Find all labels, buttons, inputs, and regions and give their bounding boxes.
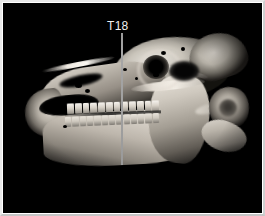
tooth	[82, 103, 89, 114]
slice-marker-label: T18	[107, 20, 129, 32]
tooth	[79, 116, 86, 126]
atlas-vertebral-canal	[219, 99, 237, 117]
tooth	[98, 102, 105, 113]
foramen	[63, 125, 67, 128]
tooth	[129, 101, 136, 112]
transverse-process	[194, 99, 229, 117]
tooth	[152, 113, 159, 123]
nasal-aperture-void	[38, 92, 100, 117]
tooth	[87, 116, 94, 126]
ct-figure: T18	[0, 0, 265, 216]
axis-vertebra-region	[197, 115, 250, 158]
foramen	[161, 51, 166, 55]
temporal-fossa-region	[169, 61, 199, 81]
ct-image-canvas: T18	[3, 3, 262, 213]
rostrum-region	[23, 87, 68, 139]
tooth	[152, 100, 159, 111]
atlas-vertebra-region	[206, 84, 252, 132]
foramen	[135, 77, 138, 80]
tooth	[137, 101, 144, 112]
skull-volume-rendering	[3, 3, 262, 213]
nasal-bone-highlight	[41, 55, 115, 74]
tooth	[94, 116, 101, 126]
zygomatic-arch-region	[131, 77, 206, 94]
tooth	[131, 114, 138, 124]
foramen	[123, 68, 127, 71]
tooth	[109, 115, 116, 125]
occipital-crest-region	[183, 25, 252, 87]
mandible-region	[42, 107, 205, 169]
foramen	[153, 73, 159, 77]
tooth	[145, 113, 152, 123]
tooth	[113, 102, 120, 113]
mandibular-cheek-teeth	[65, 113, 159, 127]
hyoid-region	[163, 64, 209, 81]
paranasal-sinus-void	[58, 71, 103, 91]
foramen	[75, 83, 82, 88]
maxillary-cheek-teeth	[67, 100, 159, 114]
tooth	[90, 103, 97, 114]
tooth	[75, 103, 82, 114]
foramen	[181, 47, 185, 51]
foramen	[85, 89, 90, 93]
cranium-region	[108, 30, 235, 106]
tooth	[101, 115, 108, 125]
diastema-region	[51, 106, 73, 114]
mandibular-ramus-region	[145, 72, 214, 166]
tooth	[65, 117, 72, 127]
tooth	[123, 114, 130, 124]
tooth	[67, 103, 74, 114]
tooth	[138, 114, 145, 124]
tooth	[72, 116, 79, 126]
orbital-rim	[137, 49, 183, 91]
occlusal-plane	[65, 110, 161, 116]
orbit-region	[143, 55, 169, 79]
maxilla-region	[36, 56, 169, 119]
slice-marker-line	[121, 33, 123, 165]
tooth	[106, 102, 113, 113]
tooth	[144, 101, 151, 112]
image-vignette	[3, 3, 262, 213]
